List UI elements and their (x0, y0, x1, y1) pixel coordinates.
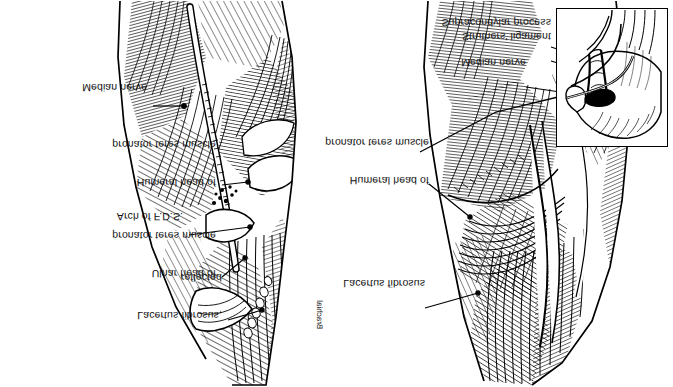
label-line: Lacertus fibrosus, (62, 309, 222, 322)
label-line: Brachial (315, 300, 324, 329)
label-median-nerve: Median nerve (57, 56, 147, 119)
inset-artwork (557, 10, 666, 146)
label-line: Supracondylar process (411, 16, 551, 29)
label-humeral-head-of-pronator-teres-muscle: Humeral head of pronator teres muscle (269, 111, 429, 211)
supracondylar-process-inset (556, 8, 668, 147)
label-line: Lacertus fibrosus (340, 277, 425, 290)
label-brachial: Brachial (300, 300, 338, 347)
flipped-plate-layer: Lacertus fibrosus, reflected Ulnar head … (0, 0, 673, 387)
panel-right-superficial-dissection: Lacertus fibrosus Humeral head of pronat… (336, 0, 673, 387)
label-line: Median nerve (57, 81, 147, 94)
label-line: pronator teres muscle (56, 138, 216, 151)
label-line: Humeral head of (269, 174, 429, 187)
label-lacertus-fibrosus: Lacertus fibrosus (340, 252, 425, 315)
label-line: Humeral head of (56, 176, 216, 189)
anatomy-figure: Lacertus fibrosus, reflected Ulnar head … (0, 0, 673, 387)
label-inset-supracondylar-process: Supracondylar process (411, 0, 551, 53)
label-line: pronator teres muscle (269, 136, 429, 149)
label-line: Ulnar head of (56, 267, 216, 280)
label-humeral-head-of-pronator-teres-muscle: Humeral head of pronator teres muscle (56, 113, 216, 213)
